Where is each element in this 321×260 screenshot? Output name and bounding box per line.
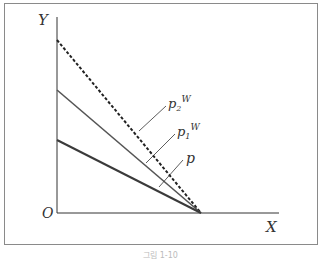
leader-p1W [146,134,175,163]
leader-p2W [139,106,166,131]
y-axis-label: Y [38,11,50,29]
label-p: p [186,150,195,166]
x-axis-label: X [265,218,278,236]
label-p2W: p2W [168,94,191,113]
leader-p [159,160,183,187]
origin-label: O [42,205,54,221]
figure-caption: 그림 1-10 [0,249,321,260]
label-p1W: p1W [177,122,200,141]
